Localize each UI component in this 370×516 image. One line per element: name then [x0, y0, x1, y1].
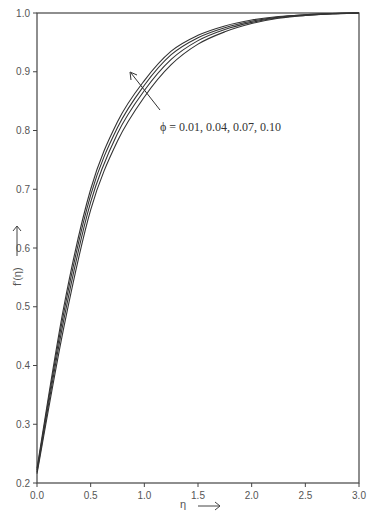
x-tick-label: 2.0 — [245, 490, 259, 501]
legend-text: ϕ = 0.01, 0.04, 0.07, 0.10 — [160, 120, 281, 134]
y-tick-label: 0.8 — [16, 125, 30, 136]
x-tick-label: 0.5 — [84, 490, 98, 501]
plot-area — [37, 13, 359, 483]
y-tick-label: 0.3 — [16, 419, 30, 430]
y-tick-label: 0.4 — [16, 360, 30, 371]
x-tick-label: 0.0 — [30, 490, 44, 501]
y-axis-title-group: f'(η) — [11, 226, 23, 286]
x-tick-label: 1.0 — [137, 490, 151, 501]
x-tick-label: 1.5 — [191, 490, 205, 501]
y-tick-label: 0.7 — [16, 184, 30, 195]
y-axis: 0.20.30.40.50.60.70.80.91.0 — [16, 8, 37, 489]
y-tick-label: 1.0 — [16, 8, 30, 19]
x-tick-label: 3.0 — [352, 490, 366, 501]
x-axis-title: η — [180, 498, 186, 510]
x-axis: 0.00.51.01.52.02.53.0 — [30, 483, 366, 501]
y-tick-label: 0.6 — [16, 243, 30, 254]
y-tick-label: 0.2 — [16, 478, 30, 489]
y-tick-label: 0.9 — [16, 66, 30, 77]
y-tick-label: 0.5 — [16, 301, 30, 312]
line-chart: 0.20.30.40.50.60.70.80.91.0 0.00.51.01.5… — [0, 0, 370, 516]
x-tick-label: 2.5 — [298, 490, 312, 501]
y-axis-title: f'(η) — [11, 267, 23, 286]
